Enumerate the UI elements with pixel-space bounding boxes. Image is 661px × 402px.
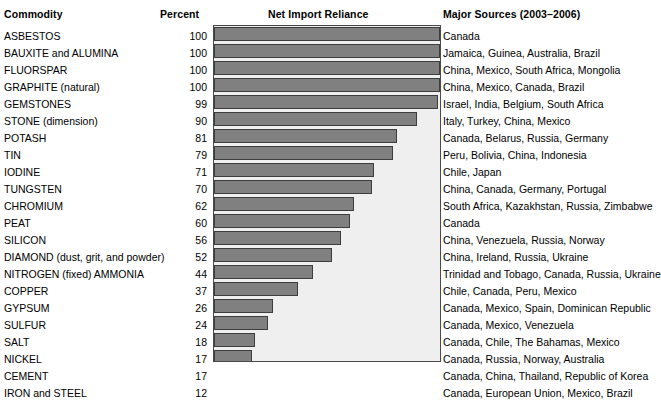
commodity-major-sources: China, Mexico, South Africa, Mongolia [443,62,620,79]
table-row: TUNGSTEN70China, Canada, Germany, Portug… [0,181,656,198]
commodity-percent: 79 [150,147,207,164]
commodity-major-sources: Canada, Chile, The Bahamas, Mexico [443,334,620,351]
table-row: BAUXITE and ALUMINA100Jamaica, Guinea, A… [0,45,656,62]
table-row: DIAMOND (dust, grit, and powder)52China,… [0,249,656,266]
table-row: TIN79Peru, Bolivia, China, Indonesia [0,147,656,164]
commodity-name: BAUXITE and ALUMINA [4,45,118,62]
commodity-major-sources: Chile, Japan [443,164,501,181]
commodity-major-sources: Canada, Russia, Norway, Australia [443,351,604,368]
commodity-name: GYPSUM [4,300,50,317]
commodity-percent: 52 [150,249,207,266]
commodity-name: FLUORSPAR [4,62,67,79]
commodity-major-sources: China, Ireland, Russia, Ukraine [443,249,588,266]
commodity-major-sources: Trinidad and Tobago, Canada, Russia, Ukr… [443,266,661,283]
commodity-percent: 44 [150,266,207,283]
commodity-percent: 56 [150,232,207,249]
commodity-percent: 26 [150,300,207,317]
commodity-major-sources: Canada, China, Thailand, Republic of Kor… [443,368,648,385]
commodity-name: TIN [4,147,21,164]
commodity-percent: 81 [150,130,207,147]
commodity-name: NICKEL [4,351,42,368]
commodity-name: ASBESTOS [4,28,60,45]
commodity-major-sources: South Africa, Kazakhstan, Russia, Zimbab… [443,198,653,215]
commodity-percent: 71 [150,164,207,181]
commodity-name: SULFUR [4,317,46,334]
commodity-name: NITROGEN (fixed) AMMONIA [4,266,144,283]
commodity-name: SALT [4,334,29,351]
commodity-name: DIAMOND (dust, grit, and powder) [4,249,164,266]
commodity-major-sources: Canada, European Union, Mexico, Brazil [443,385,633,402]
commodity-percent: 100 [150,28,207,45]
table-row: POTASH81Canada, Belarus, Russia, Germany [0,130,656,147]
commodity-name: IRON and STEEL [4,385,87,402]
commodity-percent: 100 [150,79,207,96]
commodity-percent: 60 [150,215,207,232]
table-row: COPPER37Chile, Canada, Peru, Mexico [0,283,656,300]
commodity-name: SILICON [4,232,46,249]
column-header-major-sources: Major Sources (2003–2006) [443,8,580,20]
commodity-percent: 37 [150,283,207,300]
commodity-major-sources: Jamaica, Guinea, Australia, Brazil [443,45,600,62]
table-row: GEMSTONES99Israel, India, Belgium, South… [0,96,656,113]
table-row: NITROGEN (fixed) AMMONIA44Trinidad and T… [0,266,656,283]
commodity-name: GEMSTONES [4,96,71,113]
table-row: SULFUR24Canada, Mexico, Venezuela [0,317,656,334]
commodity-major-sources: China, Mexico, Canada, Brazil [443,79,584,96]
commodity-major-sources: Peru, Bolivia, China, Indonesia [443,147,587,164]
table-row: IODINE71Chile, Japan [0,164,656,181]
chart-title: Net Import Reliance [268,8,369,20]
commodity-major-sources: Chile, Canada, Peru, Mexico [443,283,577,300]
commodity-percent: 62 [150,198,207,215]
table-row: SILICON56China, Venezuela, Russia, Norwa… [0,232,656,249]
commodity-major-sources: Israel, India, Belgium, South Africa [443,96,604,113]
commodity-percent: 17 [150,351,207,368]
commodity-major-sources: Canada [443,28,480,45]
commodity-major-sources: Italy, Turkey, China, Mexico [443,113,570,130]
commodity-major-sources: Canada, Mexico, Venezuela [443,317,574,334]
commodity-name: CEMENT [4,368,48,385]
commodity-percent: 70 [150,181,207,198]
commodity-name: TUNGSTEN [4,181,62,198]
commodity-major-sources: Canada, Belarus, Russia, Germany [443,130,608,147]
table-row: PEAT60Canada [0,215,656,232]
commodity-name: GRAPHITE (natural) [4,79,100,96]
commodity-major-sources: China, Venezuela, Russia, Norway [443,232,605,249]
table-row: ASBESTOS100Canada [0,28,656,45]
commodity-percent: 24 [150,317,207,334]
commodity-percent: 12 [150,385,207,402]
table-row: GRAPHITE (natural)100China, Mexico, Cana… [0,79,656,96]
commodity-percent: 99 [150,96,207,113]
table-row: STONE (dimension)90Italy, Turkey, China,… [0,113,656,130]
column-header-commodity: Commodity [4,8,63,20]
table-row: NICKEL17Canada, Russia, Norway, Australi… [0,351,656,368]
table-row: IRON and STEEL12Canada, European Union, … [0,385,656,402]
table-row: GYPSUM26Canada, Mexico, Spain, Dominican… [0,300,656,317]
commodity-major-sources: Canada, Mexico, Spain, Dominican Republi… [443,300,651,317]
commodity-name: PEAT [4,215,31,232]
commodity-name: IODINE [4,164,40,181]
table-row: SALT18Canada, Chile, The Bahamas, Mexico [0,334,656,351]
commodity-name: COPPER [4,283,48,300]
column-header-percent: Percent [160,8,199,20]
commodity-name: CHROMIUM [4,198,63,215]
commodity-percent: 90 [150,113,207,130]
commodity-percent: 17 [150,368,207,385]
commodity-major-sources: China, Canada, Germany, Portugal [443,181,606,198]
commodity-percent: 100 [150,45,207,62]
commodity-percent: 100 [150,62,207,79]
commodity-table-body: ASBESTOS100CanadaBAUXITE and ALUMINA100J… [0,28,656,402]
commodity-percent: 18 [150,334,207,351]
table-row: FLUORSPAR100China, Mexico, South Africa,… [0,62,656,79]
table-row: CEMENT17Canada, China, Thailand, Republi… [0,368,656,385]
table-row: CHROMIUM62South Africa, Kazakhstan, Russ… [0,198,656,215]
commodity-name: STONE (dimension) [4,113,98,130]
commodity-major-sources: Canada [443,215,480,232]
commodity-name: POTASH [4,130,46,147]
